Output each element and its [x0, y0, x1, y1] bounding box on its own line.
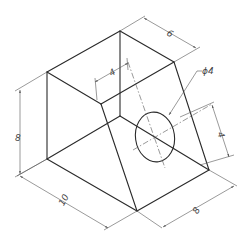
dim-width-right-label: 8: [191, 205, 203, 215]
dim-height-left: 8: [15, 72, 47, 177]
dim-hole-offset-top: 4: [95, 58, 128, 100]
dim-height-left-label: 8: [15, 133, 21, 143]
dim-top-depth: 6: [120, 16, 200, 62]
drawing-canvas: 6 4 ϕ4 8 4: [0, 0, 249, 243]
dim-length-front: 10: [17, 159, 137, 230]
dim-hole-offset-right-label: 4: [215, 131, 226, 140]
isometric-drawing: 6 4 ϕ4 8 4: [0, 0, 249, 243]
dim-top-depth-label: 6: [165, 28, 175, 40]
dim-hole-diameter-label: ϕ4: [202, 66, 214, 76]
object-edges: [47, 31, 209, 211]
hole: [128, 62, 212, 168]
dim-hole-diameter: ϕ4: [169, 66, 214, 115]
dim-hole-offset-right: 4: [180, 102, 234, 165]
dim-width-right: 8: [137, 170, 237, 228]
dim-hole-offset-top-label: 4: [107, 67, 117, 79]
